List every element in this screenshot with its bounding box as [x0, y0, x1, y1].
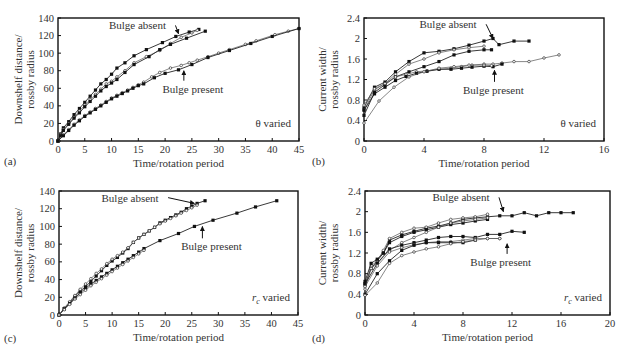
y-tick-label: 60 [44, 83, 55, 94]
data-marker [474, 239, 477, 242]
data-marker [95, 281, 98, 284]
data-marker [364, 285, 367, 288]
data-marker [106, 274, 109, 277]
annotation-label: Bulge present [470, 256, 531, 268]
data-marker [462, 217, 465, 220]
data-marker [364, 294, 367, 297]
panel-label: (a) [4, 155, 17, 168]
x-tick-label: 15 [133, 144, 144, 155]
data-marker [121, 92, 124, 95]
data-marker [79, 293, 82, 296]
y-tick-label: 2.4 [348, 186, 362, 197]
data-marker [388, 241, 391, 244]
data-marker [116, 76, 119, 79]
data-marker [482, 39, 485, 42]
x-tick-label: 0 [362, 318, 367, 329]
data-marker [94, 108, 97, 111]
y-tick-label: 20 [44, 118, 55, 129]
data-marker [400, 254, 403, 257]
data-marker [462, 220, 465, 223]
data-marker [453, 65, 456, 68]
panel-d: 00.40.81.21.622.4048121620Time/rotation … [312, 186, 615, 346]
data-marker [362, 109, 365, 112]
data-marker [137, 237, 140, 240]
data-marker [68, 303, 71, 306]
data-marker [498, 233, 501, 236]
data-marker [437, 241, 440, 244]
y-tick-label: 1.2 [348, 248, 361, 259]
data-marker [111, 270, 114, 273]
x-axis-label: Time/rotation period [133, 331, 224, 343]
y-tick-label: 40 [45, 274, 56, 285]
data-marker [558, 54, 561, 57]
panel-a: 020406080100120140051015202530354045Time… [4, 13, 304, 170]
data-marker [78, 111, 81, 114]
data-marker [89, 95, 92, 98]
data-marker [116, 254, 119, 257]
data-marker [422, 65, 425, 68]
data-marker [180, 64, 183, 67]
data-marker [99, 89, 102, 92]
y-tick-label: 140 [39, 186, 55, 197]
data-marker [190, 207, 193, 210]
x-tick-label: 5 [82, 144, 87, 155]
data-marker [467, 50, 470, 53]
data-marker [153, 226, 156, 229]
data-marker [58, 314, 61, 317]
data-marker [393, 86, 396, 89]
y-tick-label: 0.8 [347, 95, 360, 106]
data-marker [523, 211, 526, 214]
data-marker [169, 67, 172, 70]
x-tick-label: 20 [160, 144, 171, 155]
data-marker [474, 216, 477, 219]
data-marker [145, 48, 148, 51]
data-marker [449, 68, 452, 71]
data-marker [400, 241, 403, 244]
data-marker [388, 237, 391, 240]
data-marker [196, 29, 199, 32]
corner-note: θ varied [560, 117, 596, 129]
data-marker [376, 258, 379, 261]
y-tick-label: 0 [50, 310, 55, 321]
data-marker [228, 49, 231, 52]
data-marker [83, 105, 86, 108]
data-marker [500, 63, 503, 66]
y-tick-label: 2 [355, 33, 360, 44]
data-marker [373, 92, 376, 95]
x-tick-label: 40 [266, 318, 277, 329]
data-marker [95, 272, 98, 275]
data-marker [470, 66, 473, 69]
data-marker [394, 76, 397, 79]
data-marker [449, 235, 452, 238]
data-marker [394, 73, 397, 76]
y-tick-label: 100 [38, 48, 54, 59]
x-tick-label: 4 [411, 318, 417, 329]
y-tick-label: 80 [45, 239, 56, 250]
data-marker [158, 239, 161, 242]
annotation-arrow [175, 25, 178, 33]
data-marker [105, 78, 108, 81]
data-marker [174, 35, 177, 38]
y-axis-label: rossby radius [24, 224, 36, 282]
data-marker [510, 230, 513, 233]
panel-c: 020406080100120140051015202530354045Time… [4, 186, 303, 346]
data-marker [438, 52, 441, 55]
y-tick-label: 1.6 [348, 227, 361, 238]
data-marker [370, 262, 373, 265]
data-marker [376, 265, 379, 268]
data-marker [84, 283, 87, 286]
data-marker [400, 235, 403, 238]
x-tick-label: 45 [294, 144, 305, 155]
data-marker [169, 43, 172, 46]
data-marker [528, 60, 531, 63]
data-marker [510, 214, 513, 217]
data-marker [67, 129, 70, 132]
x-tick-label: 45 [293, 318, 304, 329]
y-tick-label: 40 [44, 100, 55, 111]
y-tick-label: 0.8 [348, 268, 361, 279]
figure: 020406080100120140051015202530354045Time… [0, 0, 627, 360]
data-marker [425, 248, 428, 251]
x-tick-label: 12 [539, 144, 550, 155]
annotation-label: Bulge absent [101, 192, 158, 204]
figure-svg: 020406080100120140051015202530354045Time… [0, 0, 627, 360]
